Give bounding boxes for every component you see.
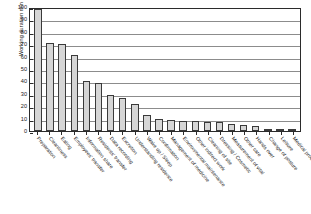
x-tick-mark	[250, 132, 262, 135]
bar-slot	[274, 9, 286, 131]
bar	[46, 43, 53, 131]
bar-slot	[80, 9, 92, 131]
x-tick-mark	[202, 132, 214, 135]
x-tick-mark	[287, 132, 299, 135]
x-label-slot: Other indirect work	[189, 136, 201, 214]
y-tick-label: 30	[9, 92, 27, 98]
y-tick-label: 100	[9, 5, 27, 11]
x-axis-tick-marks	[29, 132, 301, 135]
bar-slot	[56, 9, 68, 131]
x-label-slot: Cleanliness	[43, 136, 55, 214]
x-tick-mark	[92, 132, 104, 135]
bar-slot	[201, 9, 213, 131]
bar	[58, 44, 65, 131]
x-tick-mark	[141, 132, 153, 135]
x-label-slot: Information share	[80, 136, 92, 214]
x-label-slot: Preparation	[31, 136, 43, 214]
x-tick-mark	[31, 132, 43, 135]
x-tick-mark	[153, 132, 165, 135]
bar-slot	[153, 9, 165, 131]
bar-slot	[189, 9, 201, 131]
bar-slot	[213, 9, 225, 131]
x-tick-mark	[104, 132, 116, 135]
bar-slot	[262, 9, 274, 131]
bar-slot	[68, 9, 80, 131]
y-tick-label: 50	[9, 67, 27, 73]
bar	[71, 55, 78, 131]
bar-slot	[141, 9, 153, 131]
x-tick-label: Medical procedure	[291, 136, 311, 172]
bar-slot	[105, 9, 117, 131]
x-label-slot: Change of posture	[263, 136, 275, 214]
x-label-slot: Medical procedure	[287, 136, 299, 214]
bar-slot	[177, 9, 189, 131]
y-tick-label: 0	[9, 129, 27, 135]
bar	[131, 104, 138, 131]
x-tick-mark	[129, 132, 141, 135]
x-label-slot: Management of medicine	[165, 136, 177, 214]
x-tick-mark	[177, 132, 189, 135]
x-label-slot: Wake up / Sleep	[141, 136, 153, 214]
bar	[276, 129, 283, 131]
bar-slot	[286, 9, 298, 131]
y-tick-label: 80	[9, 30, 27, 36]
bar-slot	[92, 9, 104, 131]
x-label-slot: Residents' transfer	[92, 136, 104, 214]
x-tick-mark	[68, 132, 80, 135]
x-label-slot: Excretion	[116, 136, 128, 214]
x-label-slot: Cleaning of site	[202, 136, 214, 214]
x-tick-mark	[43, 132, 55, 135]
bar-slot	[44, 9, 56, 131]
bar	[155, 119, 162, 131]
y-tick-label: 60	[9, 55, 27, 61]
x-label-slot: Eating	[55, 136, 67, 214]
bar-chart: Working duration min 1009080706050403020…	[0, 0, 311, 214]
bar-slot	[226, 9, 238, 131]
x-tick-mark	[55, 132, 67, 135]
x-label-slot: Environmental maintenance	[177, 136, 189, 214]
bar	[34, 9, 41, 131]
x-label-slot: Hands over	[250, 136, 262, 214]
x-tick-mark	[263, 132, 275, 135]
bar	[143, 115, 150, 131]
y-tick-label: 20	[9, 104, 27, 110]
bar-slot	[250, 9, 262, 131]
x-axis-tick-labels: PreparationCleanlinessEatingEmployees' t…	[29, 136, 301, 214]
bar	[216, 122, 223, 131]
bar	[204, 122, 211, 131]
x-label-slot: Understanding residence	[129, 136, 141, 214]
x-tick-mark	[275, 132, 287, 135]
bar	[240, 125, 247, 131]
plot-area	[29, 8, 301, 132]
x-tick-mark	[80, 132, 92, 135]
x-tick-mark	[226, 132, 238, 135]
bar	[192, 121, 199, 131]
x-label-slot: Measurement of vital	[226, 136, 238, 214]
x-tick-mark	[238, 132, 250, 135]
bar	[167, 120, 174, 131]
x-label-slot: Employees' transfer	[68, 136, 80, 214]
bar-slot	[32, 9, 44, 131]
bar-series	[30, 9, 300, 131]
bar	[288, 129, 295, 131]
x-tick-mark	[165, 132, 177, 135]
bar-slot	[129, 9, 141, 131]
x-label-slot: Dressing / Cosmetic	[214, 136, 226, 214]
bar-slot	[165, 9, 177, 131]
x-tick-mark	[189, 132, 201, 135]
x-label-slot: Data recording	[104, 136, 116, 214]
y-tick-label: 40	[9, 80, 27, 86]
y-axis-tick-labels: 1009080706050403020100	[9, 8, 27, 132]
x-label-slot: Leisure	[275, 136, 287, 214]
bar	[264, 129, 271, 131]
bar	[119, 98, 126, 131]
y-tick-label: 70	[9, 42, 27, 48]
x-tick-mark	[116, 132, 128, 135]
bar	[252, 126, 259, 131]
y-tick-label: 90	[9, 18, 27, 24]
bar	[95, 83, 102, 131]
bar-slot	[117, 9, 129, 131]
bar	[107, 95, 114, 131]
x-label-slot: Confirmation	[153, 136, 165, 214]
y-tick-label: 10	[9, 117, 27, 123]
